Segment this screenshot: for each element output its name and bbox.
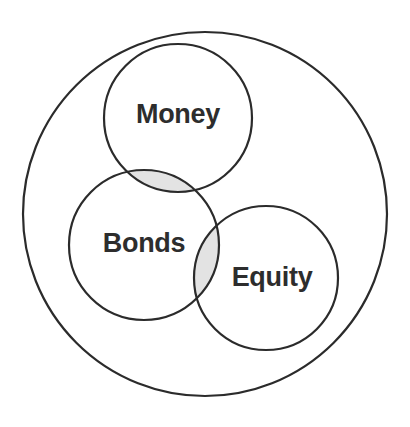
equity-label: Equity	[232, 262, 313, 292]
venn-diagram-canvas: Money Bonds Equity	[0, 0, 410, 427]
venn-diagram: Money Bonds Equity	[0, 0, 410, 427]
money-label: Money	[136, 99, 220, 129]
universe-circle[interactable]	[23, 32, 387, 396]
bonds-label: Bonds	[103, 228, 186, 258]
